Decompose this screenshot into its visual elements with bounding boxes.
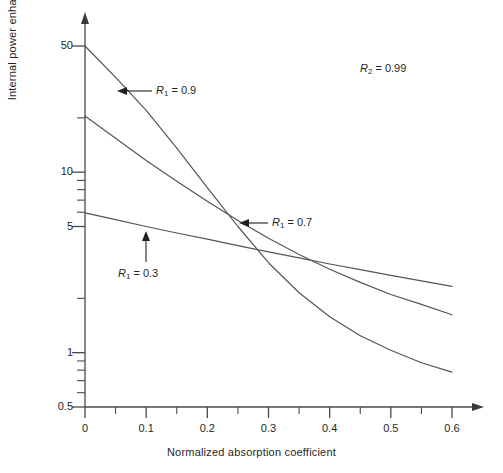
- curve-r1-0-7: [85, 116, 452, 315]
- annotation-value: = 0.3: [130, 267, 158, 279]
- annotation-r2-value: R2 = 0.99: [360, 62, 406, 76]
- pointer-r1-07: [239, 219, 268, 227]
- pointer-r1-03: [142, 231, 150, 262]
- y-tick-label: 0.5: [58, 400, 73, 412]
- pointer-r1-09: [117, 87, 152, 95]
- plot-canvas: [0, 0, 503, 473]
- annotation-symbol: R: [156, 84, 164, 96]
- annotation-r1-03: R1 = 0.3: [118, 267, 158, 281]
- chart-figure: Internal power enhancement factor Normal…: [0, 0, 503, 473]
- x-axis-arrow-icon: [472, 403, 484, 411]
- x-tick-label: 0: [55, 422, 115, 434]
- y-axis-ticks: [72, 46, 85, 407]
- x-tick-label: 0.1: [116, 422, 176, 434]
- annotation-value: = 0.7: [284, 216, 312, 228]
- annotation-r1-09: R1 = 0.9: [156, 84, 196, 98]
- axis-lines: [81, 12, 484, 411]
- curve-r1-0-9: [85, 46, 452, 372]
- y-axis-arrow-icon: [81, 12, 89, 24]
- x-axis-ticks: [85, 407, 452, 418]
- x-tick-label: 0.4: [300, 422, 360, 434]
- y-tick-label: 50: [61, 39, 73, 51]
- y-tick-label: 10: [61, 165, 73, 177]
- data-curves: [85, 46, 452, 372]
- y-tick-label: 1: [67, 346, 73, 358]
- x-tick-label: 0.5: [361, 422, 421, 434]
- x-tick-label: 0.3: [239, 422, 299, 434]
- annotation-value: = 0.99: [372, 62, 406, 74]
- x-tick-label: 0.6: [422, 422, 482, 434]
- annotation-symbol: R: [360, 62, 368, 74]
- annotation-symbol: R: [272, 216, 280, 228]
- annotation-symbol: R: [118, 267, 126, 279]
- annotation-value: = 0.9: [168, 84, 196, 96]
- x-tick-label: 0.2: [177, 422, 237, 434]
- annotation-r1-07: R1 = 0.7: [272, 216, 312, 230]
- y-tick-label: 5: [67, 220, 73, 232]
